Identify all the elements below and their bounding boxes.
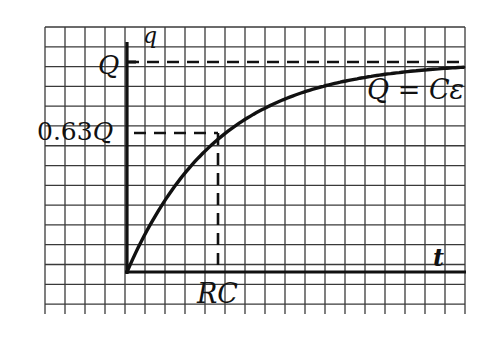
charge-vs-time-chart: q t Q 0.63Q RC Q = Cε — [0, 0, 487, 339]
value-063: 0.63 — [37, 117, 93, 146]
x-tick-label-rc: RC — [196, 278, 238, 309]
q-symbol: Q — [93, 117, 114, 146]
equation-label: Q = Cε — [367, 74, 464, 105]
y-tick-label-063q: 0.63Q — [37, 117, 113, 146]
x-axis-label: t — [433, 243, 444, 272]
y-tick-label-q: Q — [98, 50, 119, 80]
y-axis-label: q — [143, 23, 157, 48]
